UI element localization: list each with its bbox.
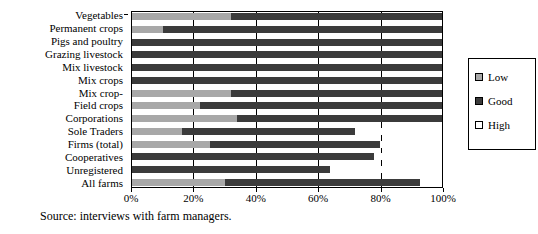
bar-segment-good [237, 115, 442, 122]
bar-segment-good [132, 51, 442, 58]
bar-segment-high [420, 179, 442, 186]
bar-row [132, 13, 442, 20]
bar-row [132, 51, 442, 58]
bar-segment-good [210, 141, 381, 148]
bar-row [132, 128, 442, 135]
x-axis-tick-label: 40% [246, 192, 266, 204]
bar-row [132, 166, 442, 173]
bar-row [132, 64, 442, 71]
y-axis-label: Permanent crops [0, 25, 128, 32]
bar-row [132, 39, 442, 46]
y-axis-label: Vegetables [0, 12, 128, 19]
y-axis-label: Mix crop- [0, 90, 128, 97]
x-axis-labels: 0%20%40%60%80%100% [131, 192, 443, 208]
bar-segment-low [132, 90, 231, 97]
y-axis-label: Corporations [0, 115, 128, 122]
bar-segment-good [163, 26, 442, 33]
legend-swatch-good [475, 97, 483, 105]
bar-row [132, 26, 442, 33]
y-axis-label: Sole Traders [0, 128, 128, 135]
legend-swatch-low [475, 73, 483, 81]
bar-segment-low [132, 141, 210, 148]
bar-row [132, 141, 442, 148]
y-axis-labels: VegetablesPermanent cropsPigs and poultr… [0, 11, 128, 188]
bar-segment-high [380, 141, 442, 148]
legend-label: Low [488, 71, 508, 83]
legend-item[interactable]: Low [475, 65, 535, 89]
y-axis-label: Firms (total) [0, 141, 128, 148]
chart-figure: VegetablesPermanent cropsPigs and poultr… [0, 0, 538, 234]
bar-row [132, 115, 442, 122]
bar-segment-good [132, 153, 374, 160]
bar-segment-high [374, 153, 442, 160]
bar-segment-high [330, 166, 442, 173]
x-axis-tick-label: 20% [183, 192, 203, 204]
y-axis-label: Field crops [0, 102, 128, 109]
bar-segment-low [132, 26, 163, 33]
bar-segment-good [132, 77, 442, 84]
x-axis-tick-label: 100% [430, 192, 456, 204]
bar-segment-low [132, 179, 225, 186]
y-axis-tick [124, 14, 128, 15]
y-axis-label: All farms [0, 180, 128, 187]
bar-segment-good [200, 102, 442, 109]
bar-segment-good [132, 64, 442, 71]
bar-row [132, 153, 442, 160]
bar-segment-good [225, 179, 420, 186]
bar-segment-low [132, 115, 237, 122]
plot-area [131, 11, 443, 188]
bar-segment-low [132, 128, 182, 135]
legend-item[interactable]: Good [475, 89, 535, 113]
bar-segment-good [132, 39, 442, 46]
y-axis-label: Mix livestock [0, 64, 128, 71]
bar-segment-high [355, 128, 442, 135]
bar-segment-good [132, 166, 330, 173]
legend-item[interactable]: High [475, 113, 535, 137]
bar-segment-good [231, 90, 442, 97]
bar-segment-low [132, 13, 231, 20]
bar-segment-good [231, 13, 442, 20]
x-axis-tick-label: 80% [371, 192, 391, 204]
bar-row [132, 77, 442, 84]
bar-rows [132, 12, 442, 187]
bar-row [132, 90, 442, 97]
bar-row [132, 179, 442, 186]
y-axis-label: Mix crops [0, 77, 128, 84]
x-axis-tick-label: 0% [124, 192, 139, 204]
legend-swatch-high [475, 121, 483, 129]
y-axis-label: Cooperatives [0, 154, 128, 161]
legend-label: High [488, 119, 510, 131]
bar-segment-low [132, 102, 200, 109]
chart-legend: LowGoodHigh [468, 58, 536, 150]
source-note: Source: interviews with farm managers. [40, 209, 232, 224]
bar-row [132, 102, 442, 109]
y-axis-label: Grazing livestock [0, 51, 128, 58]
x-axis-tick-label: 60% [308, 192, 328, 204]
bar-segment-good [182, 128, 356, 135]
y-axis-label: Unregistered [0, 167, 128, 174]
legend-label: Good [488, 95, 512, 107]
y-axis-label: Pigs and poultry [0, 38, 128, 45]
